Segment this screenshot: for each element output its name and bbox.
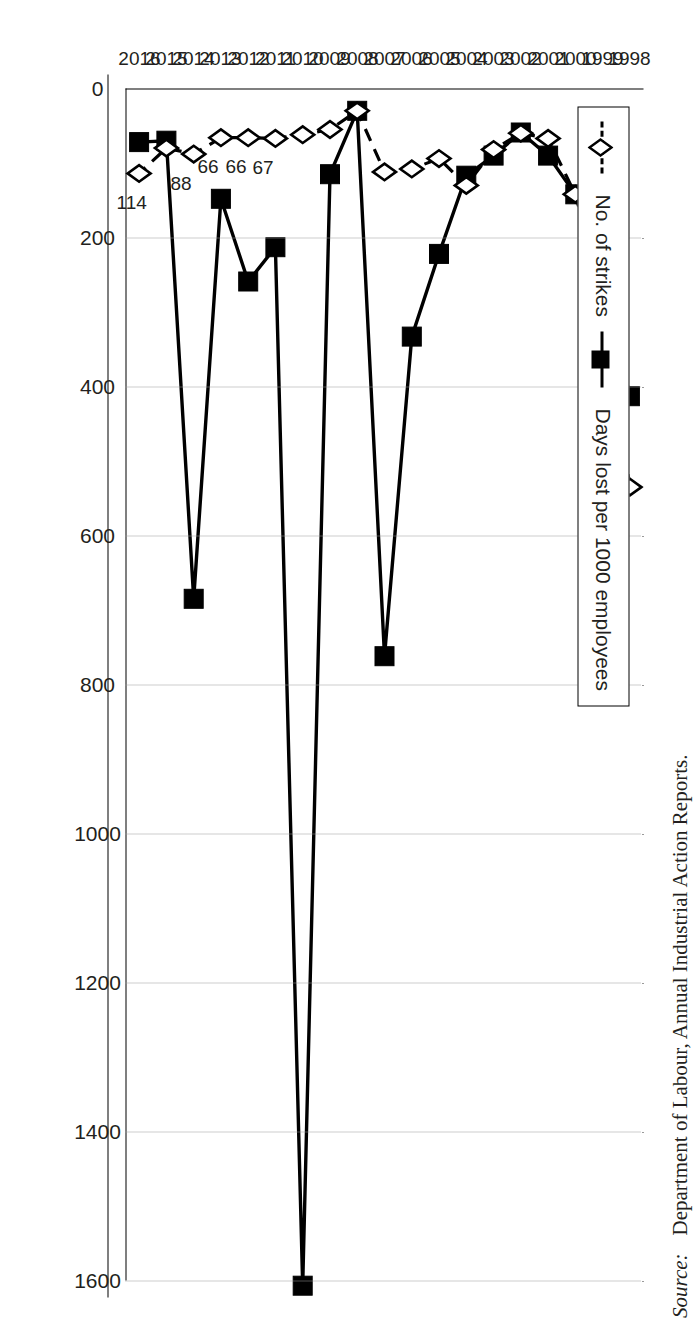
legend-solid-line-icon	[601, 331, 604, 387]
marker-filled-square	[402, 327, 421, 346]
marker-open-diamond	[236, 129, 259, 146]
marker-open-diamond	[400, 160, 423, 177]
value-axis-tick-label: 1000	[57, 821, 137, 845]
open-diamond-icon	[590, 139, 612, 155]
marker-open-diamond	[373, 163, 396, 180]
source-text: Department of Labour, Annual Industrial …	[668, 755, 692, 1236]
marker-filled-square	[375, 646, 394, 665]
gridline	[125, 982, 643, 983]
marker-filled-square	[320, 164, 339, 183]
value-axis-tick-label: 400	[57, 374, 137, 398]
gridline	[125, 237, 643, 238]
marker-filled-square	[429, 244, 448, 263]
gridline	[125, 684, 643, 685]
value-axis-tick-label: 0	[57, 76, 137, 100]
gridline	[125, 535, 643, 536]
data-point-label: 114	[116, 191, 162, 213]
source-label: Source:	[668, 1253, 692, 1318]
marker-filled-square	[538, 146, 557, 165]
legend-dashed-line-icon	[601, 121, 604, 173]
value-axis-tick-label: 600	[57, 523, 137, 547]
legend-entry[interactable]: No. of strikes	[576, 121, 628, 317]
marker-filled-square	[293, 1276, 312, 1295]
data-point-label: 88	[170, 172, 216, 194]
value-axis-tick-label: 200	[57, 225, 137, 249]
plot-area	[125, 88, 643, 1280]
marker-open-diamond	[127, 165, 150, 182]
category-axis-tick-label: 2016	[113, 47, 165, 69]
marker-open-diamond	[536, 130, 559, 147]
gridline	[125, 1131, 643, 1132]
gridline	[125, 1280, 643, 1281]
marker-filled-square	[184, 589, 203, 608]
marker-filled-square	[238, 272, 257, 291]
chart-legend: No. of strikesDays lost per 1000 employe…	[577, 106, 629, 706]
value-axis-tick-label: 1600	[57, 1268, 137, 1292]
legend-label: No. of strikes	[590, 194, 614, 317]
marker-filled-square	[129, 132, 148, 151]
source-note: Source:Department of Labour, Annual Indu…	[668, 755, 693, 1318]
legend-label: Days lost per 1000 employees	[590, 408, 614, 691]
legend-entry[interactable]: Days lost per 1000 employees	[576, 331, 628, 691]
value-axis-tick-label: 1400	[57, 1119, 137, 1143]
gridline	[125, 833, 643, 834]
value-axis-tick-label: 1200	[57, 970, 137, 994]
marker-filled-square	[265, 237, 284, 256]
value-axis-tick-label: 800	[57, 672, 137, 696]
marker-open-diamond	[291, 126, 314, 143]
filled-square-icon	[592, 350, 610, 368]
marker-open-diamond	[263, 130, 286, 147]
gridline	[125, 386, 643, 387]
series-line-days-lost	[139, 110, 630, 1285]
